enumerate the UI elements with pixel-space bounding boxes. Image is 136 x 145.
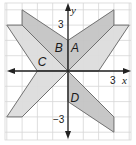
y-tick-neg-3: −3	[53, 114, 65, 125]
coordinate-plane: CBAD y 3 3 x −3	[0, 0, 136, 145]
region-label-b: B	[55, 41, 63, 55]
coordinate-plane-figure: CBAD y 3 3 x −3	[0, 0, 136, 145]
region-label-d: D	[71, 91, 80, 105]
region-label-a: A	[70, 41, 79, 55]
y-axis-arrow-down-icon	[65, 131, 71, 139]
x-tick-3: 3	[110, 75, 116, 86]
y-tick-3: 3	[58, 19, 64, 30]
x-axis-label: x	[121, 74, 127, 86]
y-axis-label: y	[70, 4, 76, 16]
x-axis-arrow-left-icon	[7, 68, 15, 74]
region-label-c: C	[38, 55, 47, 69]
